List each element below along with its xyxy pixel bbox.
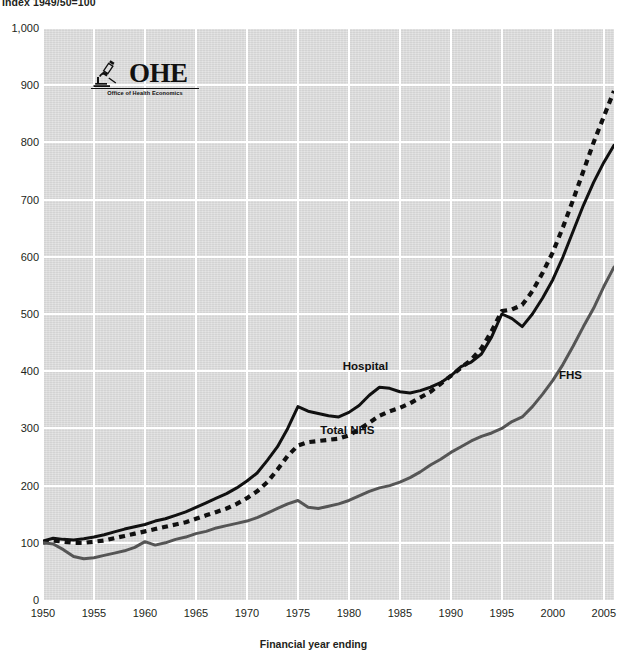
series-line-hospital	[43, 145, 614, 541]
y-tick-label: 100	[1, 538, 39, 549]
series-label-fhs: FHS	[559, 369, 582, 381]
ohe-logo: OHE Office of Health Economics	[91, 58, 199, 96]
y-tick-label: 600	[1, 252, 39, 263]
ohe-wordmark: OHE	[129, 60, 188, 87]
x-axis-title: Financial year ending	[0, 638, 627, 650]
y-tick-label: 400	[1, 366, 39, 377]
series-lines	[43, 28, 614, 600]
x-tick-label: 2005	[574, 607, 627, 619]
y-tick-label: 500	[1, 309, 39, 320]
y-tick-label: 1,000	[1, 23, 39, 34]
y-tick-label: 700	[1, 195, 39, 206]
y-tick-label: 0	[1, 595, 39, 606]
series-line-fhs	[43, 267, 614, 559]
y-tick-label: 200	[1, 481, 39, 492]
microscope-icon	[91, 58, 127, 88]
y-tick-label: 900	[1, 80, 39, 91]
series-label-total-nhs: Total NHS	[320, 424, 374, 436]
y-tick-label: 800	[1, 137, 39, 148]
y-axis: 01002003004005006007008009001,000	[0, 0, 39, 661]
ohe-tagline: Office of Health Economics	[91, 88, 199, 96]
chart-figure: Index 1949/50=100 HospitalTotal NHSFHS O…	[0, 0, 627, 661]
y-tick-label: 300	[1, 423, 39, 434]
plot-area: HospitalTotal NHSFHS OHE Office of Healt…	[43, 28, 614, 600]
series-label-hospital: Hospital	[343, 360, 388, 372]
